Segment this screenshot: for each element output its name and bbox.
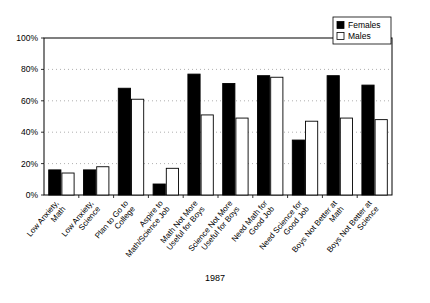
chart-title: 1987 — [205, 273, 225, 283]
bar-males-4 — [201, 115, 213, 195]
ytick-label-100: 100% — [16, 33, 38, 43]
bar-males-8 — [340, 118, 352, 195]
bar-males-0 — [62, 173, 74, 195]
bar-males-6 — [271, 77, 283, 195]
ytick-label-40: 40% — [21, 127, 38, 137]
bar-females-9 — [362, 85, 374, 195]
chart-legend: Females Males — [333, 17, 391, 44]
bar-males-5 — [236, 118, 248, 195]
legend-swatch-males — [337, 33, 344, 40]
bar-females-7 — [292, 140, 304, 195]
bar-chart: 0%20%40%60%80%100% Low Anxiety,MathLow A… — [0, 0, 430, 303]
bar-females-1 — [84, 170, 96, 195]
bar-females-3 — [153, 184, 165, 195]
legend-label-males: Males — [348, 31, 371, 41]
ytick-label-20: 20% — [21, 159, 38, 169]
ytick-label-80: 80% — [21, 64, 38, 74]
bar-males-2 — [132, 99, 144, 195]
bar-males-1 — [97, 167, 109, 195]
bar-females-8 — [327, 76, 339, 195]
plot-area-frame — [44, 38, 392, 195]
bar-females-2 — [118, 88, 130, 195]
ytick-label-0: 0% — [26, 190, 39, 200]
ytick-label-60: 60% — [21, 96, 38, 106]
bar-males-9 — [375, 120, 387, 195]
chart-canvas: 0%20%40%60%80%100% Low Anxiety,MathLow A… — [0, 0, 430, 303]
bar-females-4 — [188, 74, 200, 195]
bar-females-6 — [258, 76, 270, 195]
legend-swatch-females — [337, 22, 344, 29]
legend-label-females: Females — [348, 20, 381, 30]
bar-females-0 — [49, 170, 61, 195]
bar-males-3 — [166, 168, 178, 195]
bar-males-7 — [306, 121, 318, 195]
bar-females-5 — [223, 84, 235, 195]
